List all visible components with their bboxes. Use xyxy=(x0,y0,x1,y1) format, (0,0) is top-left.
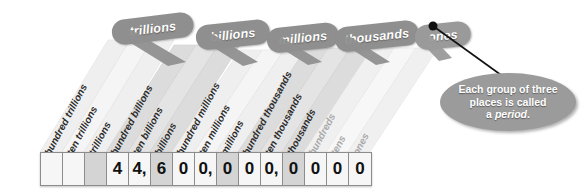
digit-cell[interactable]: 0 xyxy=(173,153,195,185)
digit-cell[interactable] xyxy=(85,153,107,185)
digit-cell[interactable]: 0 xyxy=(349,153,371,185)
callout-line-2: places is called xyxy=(469,96,546,108)
digit-cell[interactable]: 0 xyxy=(217,153,239,185)
digit-cell[interactable] xyxy=(41,153,63,185)
digit-cell[interactable]: 4 xyxy=(107,153,129,185)
digit-cell[interactable] xyxy=(63,153,85,185)
digit-cell[interactable]: 6 xyxy=(151,153,173,185)
digit-cell[interactable]: 0 xyxy=(327,153,349,185)
digit-cell[interactable]: 0 xyxy=(283,153,305,185)
digit-cell[interactable]: 0 xyxy=(239,153,261,185)
callout-text: Each group of three places is called a p… xyxy=(448,83,567,121)
place-value-chart: trillions billions millions thousands on… xyxy=(0,0,581,193)
callout-bubble: Each group of three places is called a p… xyxy=(440,73,576,131)
callout-line-3-emphasis: period xyxy=(495,108,527,120)
callout-line-3-suffix: . xyxy=(527,108,530,120)
callout-line-1: Each group of three xyxy=(458,83,557,95)
digit-row: 4 4, 6 0 0, 0 0 0, 0 0 0 0 xyxy=(40,152,372,186)
digit-cell[interactable]: 0 xyxy=(305,153,327,185)
digit-cell[interactable]: 4, xyxy=(129,153,151,185)
digit-cell[interactable]: 0, xyxy=(195,153,217,185)
digit-cell[interactable]: 0, xyxy=(261,153,283,185)
callout-line-3-prefix: a xyxy=(486,108,495,120)
